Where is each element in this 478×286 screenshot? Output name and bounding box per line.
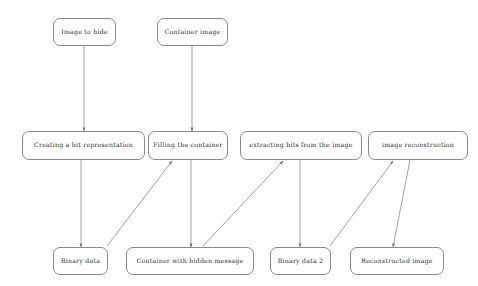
node-label: image reconstruction [382, 142, 454, 149]
flowchart-canvas: Image to hide Container image Creating a… [0, 0, 478, 286]
node-label: Binary data 2 [278, 258, 324, 265]
node-label: extracting bits from the image [249, 142, 352, 149]
edge-image_recon-to-reconstructed_image [393, 160, 410, 247]
node-label: Reconstructed image [361, 258, 433, 265]
node-label: Creating a bit representation [34, 142, 133, 149]
node-label: Filling the container [153, 142, 222, 149]
node-container-with-hidden-message[interactable]: Container with hidden message [126, 247, 254, 275]
node-reconstructed-image[interactable]: Reconstructed image [350, 247, 444, 275]
node-binary-data[interactable]: Binary data [53, 247, 108, 275]
node-image-to-hide[interactable]: Image to hide [53, 18, 116, 46]
node-image-reconstruction[interactable]: image reconstruction [368, 131, 468, 160]
node-extracting-bits-from-the-image[interactable]: extracting bits from the image [240, 131, 362, 160]
edge-container_hidden-to-extracting_bits [203, 161, 283, 246]
node-label: Binary data [61, 258, 100, 265]
node-binary-data-2[interactable]: Binary data 2 [270, 247, 331, 275]
edge-binary_data_2-to-image_recon [330, 161, 393, 246]
node-label: Container with hidden message [137, 258, 244, 265]
node-container-image[interactable]: Container image [157, 18, 228, 46]
node-creating-bit-representation[interactable]: Creating a bit representation [22, 131, 145, 160]
node-label: Image to hide [61, 29, 108, 36]
edge-binary_data-to-filling_container [107, 161, 172, 246]
node-filling-the-container[interactable]: Filling the container [148, 131, 228, 160]
node-label: Container image [164, 29, 220, 36]
